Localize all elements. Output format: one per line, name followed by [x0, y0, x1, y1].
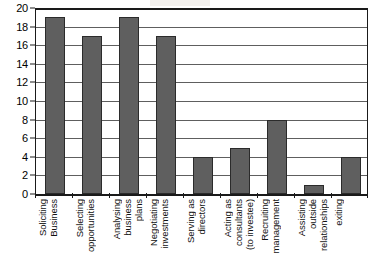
bar	[230, 148, 250, 195]
x-axis-tick-mark	[294, 193, 295, 198]
y-axis-tick-label: 16	[16, 40, 28, 51]
x-axis-label-line: Recruiting	[259, 199, 270, 241]
x-axis-label-line: Soliciting	[37, 199, 48, 236]
y-axis-tick-label: 6	[22, 133, 28, 144]
x-axis-category-label: exiting	[333, 199, 370, 279]
x-axis-label-line: (to investee)	[244, 199, 255, 250]
bar-chart-figure: 20181614121086420 SolicitingBusinessSele…	[0, 0, 383, 279]
x-axis-tick-mark	[35, 193, 36, 198]
x-axis-label-line: Analysing	[111, 199, 122, 239]
y-axis-tick-label: 8	[22, 114, 28, 125]
bar	[156, 36, 176, 194]
x-axis-tick-mark	[146, 193, 147, 198]
bar	[119, 17, 139, 194]
x-axis-label-line: relationships	[318, 199, 329, 251]
y-axis-tick-label: 4	[22, 151, 28, 162]
y-axis-tick-label: 2	[22, 170, 28, 181]
x-axis-category-label: Analysingbusinessplans	[111, 199, 148, 279]
y-axis-tick-label: 14	[16, 58, 28, 69]
y-axis-tick-label: 10	[16, 96, 28, 107]
x-axis-label-line: Selecting	[74, 199, 85, 237]
scan-artifact	[150, 0, 210, 6]
x-axis-label-line: consultants	[233, 199, 244, 246]
x-axis-category-label: Negotiatinginvestments	[148, 199, 185, 279]
bar	[341, 157, 361, 194]
x-axis-tick-mark	[367, 193, 368, 198]
y-axis-tick-label: 20	[16, 3, 28, 14]
x-axis-category-labels: SolicitingBusinessSelectingopportunities…	[35, 199, 368, 279]
x-axis-tick-marks	[35, 193, 368, 198]
bar	[45, 17, 65, 194]
bar	[267, 120, 287, 194]
x-axis-label-line: Assisting	[296, 199, 307, 236]
x-axis-tick-mark	[109, 193, 110, 198]
y-axis-tick-labels: 20181614121086420	[0, 8, 30, 194]
x-axis-label-line: Negotiating	[148, 199, 159, 246]
x-axis-tick-mark	[183, 193, 184, 198]
x-axis-label-line: Business	[48, 199, 59, 237]
x-axis-label-line: exiting	[333, 199, 344, 226]
x-axis-category-label: Acting asconsultants(to investee)	[222, 199, 259, 279]
x-axis-label-line: directors	[196, 199, 207, 235]
x-axis-category-label: Assistingoutsiderelationships	[296, 199, 333, 279]
x-axis-label-line: management	[270, 199, 281, 253]
y-axis-tick-label: 0	[22, 189, 28, 200]
x-axis-category-label: Selectingopportunities	[74, 199, 111, 279]
x-axis-tick-mark	[257, 193, 258, 198]
plot-area	[35, 8, 368, 194]
x-axis-label-line: Acting as	[222, 199, 233, 237]
y-axis-tick-label: 18	[16, 21, 28, 32]
bars-series	[36, 8, 367, 194]
y-axis-tick-label: 12	[16, 77, 28, 88]
x-axis-category-label: Serving asdirectors	[185, 199, 222, 279]
x-axis-category-label: SolicitingBusiness	[37, 199, 74, 279]
x-axis-category-label: Recruitingmanagement	[259, 199, 296, 279]
x-axis-tick-mark	[331, 193, 332, 198]
bar	[193, 157, 213, 194]
x-axis-label-line: outside	[307, 199, 318, 229]
x-axis-label-line: opportunities	[85, 199, 96, 252]
x-axis-label-line: Serving as	[185, 199, 196, 243]
x-axis-label-line: plans	[133, 199, 144, 221]
x-axis-tick-mark	[220, 193, 221, 198]
x-axis-tick-mark	[72, 193, 73, 198]
x-axis-label-line: business	[122, 199, 133, 236]
x-axis-label-line: investments	[159, 199, 170, 249]
bar	[82, 36, 102, 194]
